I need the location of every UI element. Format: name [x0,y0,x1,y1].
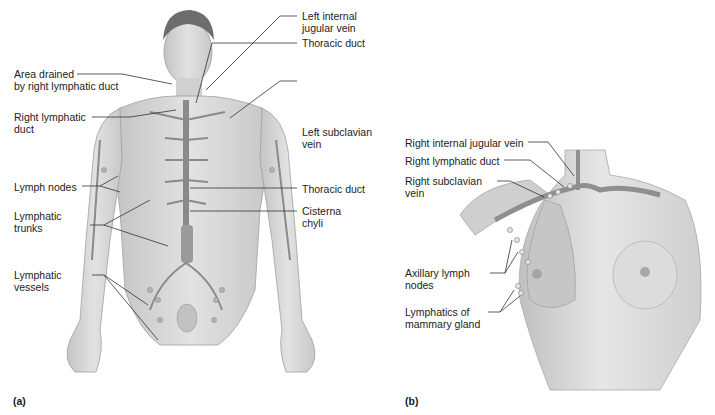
female-chest-illustration [400,0,715,415]
label-lymphatic-trunks: Lymphatic trunks [14,210,61,234]
label-left-subclavian-vein: Left subclavian vein [302,126,372,150]
panel-b-mammary-lymphatics: Right internal jugular vein Right lympha… [400,0,715,415]
label-lymph-nodes: Lymph nodes [14,181,77,193]
label-right-lymphatic-duct-b: Right lymphatic duct [405,155,500,167]
label-thoracic-duct-lower: Thoracic duct [302,183,365,195]
panel-b-tag: (b) [405,395,418,407]
label-right-lymphatic-duct: Right lymphatic duct [14,111,86,135]
panel-a-male-lymphatic-system: Area drained by right lymphatic duct Rig… [0,0,400,415]
label-lymphatic-vessels: Lymphatic vessels [14,269,61,293]
label-right-subclavian-vein: Right subclavian vein [405,175,482,199]
label-thoracic-duct-upper: Thoracic duct [302,37,365,49]
label-axillary-lymph-nodes: Axillary lymph nodes [405,267,470,291]
panel-a-tag: (a) [13,395,26,407]
label-left-internal-jugular-vein: Left internal jugular vein [302,10,357,34]
label-area-drained-by-right-lymphatic-duct: Area drained by right lymphatic duct [14,68,118,92]
label-cisterna-chyli: Cisterna chyli [302,205,341,229]
label-lymphatics-of-mammary-gland: Lymphatics of mammary gland [405,306,480,330]
label-right-internal-jugular-vein: Right internal jugular vein [405,137,523,149]
